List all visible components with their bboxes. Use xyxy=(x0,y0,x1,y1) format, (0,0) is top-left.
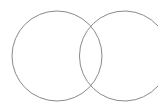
right-open-arc xyxy=(79,11,158,101)
left-circle xyxy=(12,11,102,101)
overlapping-circles-diagram xyxy=(0,0,161,112)
